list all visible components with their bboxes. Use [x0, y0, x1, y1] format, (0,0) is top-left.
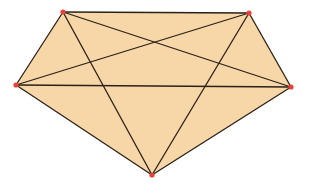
vertex-A	[60, 9, 65, 14]
vertex-D	[149, 172, 154, 177]
vertex-B	[246, 10, 251, 15]
pentagon-fill	[16, 12, 291, 175]
vertex-C	[288, 84, 293, 89]
pentagon-diagram	[0, 0, 309, 195]
vertex-E	[13, 82, 18, 87]
